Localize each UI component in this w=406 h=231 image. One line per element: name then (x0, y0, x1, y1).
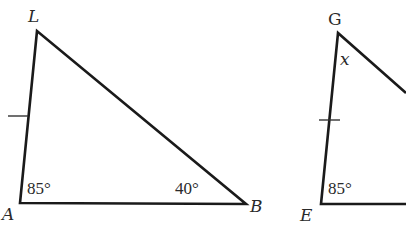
vertex-label-e: E (299, 205, 313, 225)
vertex-label-b: B (249, 196, 263, 216)
angle-b-label: 40° (175, 179, 199, 198)
angle-e-label: 85° (328, 179, 352, 198)
angle-g-label: x (340, 49, 350, 69)
vertex-label-a: A (0, 204, 14, 224)
triangles-diagram: L A B 85° 40° G E x 85° (0, 0, 406, 231)
triangle-lab (20, 31, 246, 204)
vertex-label-l: L (27, 6, 39, 26)
angle-a-label: 85° (27, 179, 51, 198)
vertex-label-g: G (328, 9, 342, 29)
